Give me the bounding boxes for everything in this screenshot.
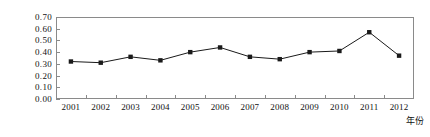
x-tick-label: 2010 xyxy=(330,102,349,113)
data-point-marker xyxy=(128,55,132,59)
y-tick-label: 0.30 xyxy=(16,59,52,68)
data-point-marker xyxy=(367,30,371,34)
x-tick-label: 2001 xyxy=(62,102,81,113)
x-tick-label: 2012 xyxy=(390,102,409,113)
x-tick-label: 2011 xyxy=(360,102,378,113)
series-line xyxy=(71,32,399,62)
ecological-pressure-index-line-chart: 生态压力指数 0.000.100.200.300.400.500.600.70 … xyxy=(0,0,430,137)
y-tick-label: 0.20 xyxy=(16,71,52,80)
data-point-marker xyxy=(337,49,341,53)
x-axis-title: 年份 xyxy=(406,116,424,127)
x-tick-label: 2004 xyxy=(151,102,170,113)
x-tick-label: 2002 xyxy=(91,102,110,113)
data-point-marker xyxy=(218,45,222,49)
x-tick-label: 2003 xyxy=(121,102,140,113)
x-tick-label: 2008 xyxy=(270,102,289,113)
x-tick-label: 2005 xyxy=(181,102,200,113)
y-tick-label: 0.00 xyxy=(16,95,52,104)
data-point-marker xyxy=(69,59,73,63)
x-tick-label: 2009 xyxy=(300,102,319,113)
data-point-marker xyxy=(307,50,311,54)
data-series-layer xyxy=(56,17,414,99)
y-tick-label: 0.60 xyxy=(16,24,52,33)
data-point-marker xyxy=(278,57,282,61)
x-axis-tick-labels: 2001200220032004200520062007200820092010… xyxy=(56,102,414,115)
y-tick-mark xyxy=(56,99,60,100)
data-point-marker xyxy=(188,50,192,54)
data-point-marker xyxy=(99,60,103,64)
x-tick-label: 2006 xyxy=(211,102,230,113)
y-tick-label: 0.10 xyxy=(16,83,52,92)
y-tick-label: 0.50 xyxy=(16,36,52,45)
y-tick-label: 0.40 xyxy=(16,48,52,57)
data-point-marker xyxy=(397,53,401,57)
data-point-marker xyxy=(158,58,162,62)
data-point-marker xyxy=(248,55,252,59)
y-tick-label: 0.70 xyxy=(16,13,52,22)
y-axis-tick-labels: 0.000.100.200.300.400.500.600.70 xyxy=(16,12,52,104)
x-tick-label: 2007 xyxy=(241,102,260,113)
